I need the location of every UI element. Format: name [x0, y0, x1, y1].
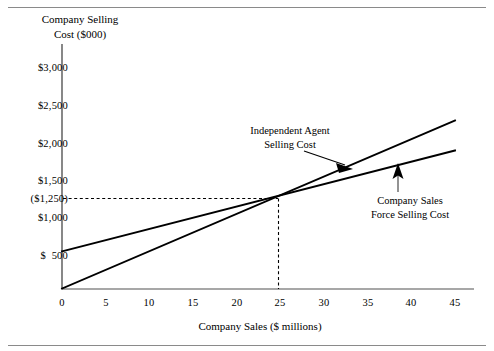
chart-figure: Company Selling Cost ($000) $3,000 $2,50… [0, 0, 494, 351]
y-tick-label-500: $ 500 [8, 249, 68, 262]
x-tick-label-15: 15 [179, 296, 207, 309]
y-tick-label-2500: $2,500 [8, 99, 68, 112]
annotation-company-sales-force-selling-cost: Company Sales Force Selling Cost [352, 194, 468, 222]
y-tick-label-3000: $3,000 [8, 61, 68, 74]
x-tick-label-10: 10 [135, 296, 163, 309]
x-tick-label-25: 25 [266, 296, 294, 309]
y-tick-label-1250-breakeven: ($1,250) [0, 192, 68, 205]
y-tick-label-1000: $1,000 [8, 211, 68, 224]
x-tick-label-40: 40 [397, 296, 425, 309]
y-tick-label-2000: $2,000 [8, 137, 68, 150]
x-tick-label-0: 0 [48, 296, 76, 309]
y-axis-title: Company Selling Cost ($000) [14, 12, 146, 42]
x-tick-label-20: 20 [223, 296, 251, 309]
x-tick-label-35: 35 [354, 296, 382, 309]
x-axis-title: Company Sales ($ millions) [150, 320, 370, 332]
annotation-leader-independent-agent [304, 151, 345, 165]
annotation-independent-agent-selling-cost: Independent Agent Selling Cost [228, 124, 352, 152]
x-tick-label-5: 5 [92, 296, 120, 309]
x-tick-label-45: 45 [441, 296, 469, 309]
x-tick-label-30: 30 [310, 296, 338, 309]
y-tick-label-1500: $1,500 [8, 174, 68, 187]
